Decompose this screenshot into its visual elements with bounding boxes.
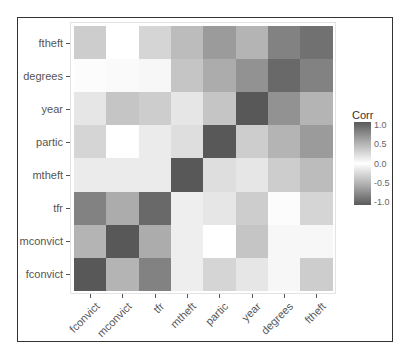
heatmap-cell bbox=[203, 59, 236, 93]
heatmap-cell bbox=[236, 192, 269, 226]
heatmap-cell bbox=[268, 26, 301, 60]
heatmap-cell bbox=[171, 59, 204, 93]
legend-tick-label: 1.0 bbox=[374, 120, 387, 130]
x-tick bbox=[219, 294, 220, 298]
heatmap-cell bbox=[268, 92, 301, 126]
y-tick-label: tfr bbox=[53, 202, 63, 214]
y-tick bbox=[66, 274, 70, 275]
legend-title: Corr bbox=[352, 109, 373, 121]
heatmap-cell bbox=[203, 26, 236, 60]
legend-tick-label: 0.0 bbox=[374, 159, 387, 169]
heatmap-cell bbox=[300, 26, 333, 60]
x-tick bbox=[155, 294, 156, 298]
y-tick-label: fconvict bbox=[26, 268, 63, 280]
heatmap-cell bbox=[106, 158, 139, 192]
y-tick-label: ftheft bbox=[39, 37, 63, 49]
y-tick-label: mtheft bbox=[32, 169, 63, 181]
heatmap-cell bbox=[171, 125, 204, 159]
heatmap-cell bbox=[300, 192, 333, 226]
heatmap-cell bbox=[268, 258, 301, 292]
x-tick bbox=[252, 294, 253, 298]
legend-tick-label: -0.5 bbox=[374, 178, 390, 188]
legend-tick-label: 0.5 bbox=[374, 139, 387, 149]
heatmap-cell bbox=[106, 125, 139, 159]
heatmap-cell bbox=[139, 26, 172, 60]
heatmap-cell bbox=[74, 125, 107, 159]
x-tick bbox=[90, 294, 91, 298]
heatmap-cell bbox=[106, 225, 139, 259]
heatmap-cell bbox=[268, 192, 301, 226]
heatmap-cell bbox=[171, 192, 204, 226]
heatmap-cell bbox=[139, 92, 172, 126]
heatmap-cell bbox=[236, 225, 269, 259]
y-tick bbox=[66, 175, 70, 176]
heatmap-cell bbox=[268, 158, 301, 192]
heatmap-cell bbox=[171, 26, 204, 60]
heatmap-cell bbox=[139, 225, 172, 259]
heatmap-cell bbox=[106, 26, 139, 60]
y-tick bbox=[66, 142, 70, 143]
heatmap-cell bbox=[203, 158, 236, 192]
y-tick bbox=[66, 76, 70, 77]
y-tick bbox=[66, 109, 70, 110]
heatmap-cell bbox=[236, 26, 269, 60]
heatmap-cell bbox=[268, 59, 301, 93]
heatmap-cell bbox=[171, 92, 204, 126]
heatmap-cell bbox=[203, 92, 236, 126]
heatmap-cell bbox=[203, 258, 236, 292]
heatmap-cell bbox=[268, 125, 301, 159]
y-tick bbox=[66, 208, 70, 209]
y-tick-label: degrees bbox=[23, 70, 63, 82]
x-tick bbox=[284, 294, 285, 298]
x-tick bbox=[187, 294, 188, 298]
heatmap-cell bbox=[106, 59, 139, 93]
heatmap-cell bbox=[300, 258, 333, 292]
heatmap-cell bbox=[171, 225, 204, 259]
legend-tick-label: -1.0 bbox=[374, 197, 390, 207]
heatmap-cell bbox=[236, 258, 269, 292]
heatmap-cell bbox=[139, 158, 172, 192]
heatmap-cell bbox=[74, 59, 107, 93]
heatmap-cell bbox=[171, 258, 204, 292]
heatmap-cell bbox=[236, 59, 269, 93]
heatmap-cell bbox=[139, 192, 172, 226]
heatmap-cell bbox=[300, 59, 333, 93]
y-tick-label: partic bbox=[36, 136, 63, 148]
heatmap-cell bbox=[106, 258, 139, 292]
heatmap-cell bbox=[106, 192, 139, 226]
heatmap-cell bbox=[300, 125, 333, 159]
heatmap-cell bbox=[74, 92, 107, 126]
heatmap-cell bbox=[139, 59, 172, 93]
heatmap-cell bbox=[203, 192, 236, 226]
heatmap-cell bbox=[236, 125, 269, 159]
heatmap-cell bbox=[171, 158, 204, 192]
heatmap-cell bbox=[106, 92, 139, 126]
heatmap-cell bbox=[203, 125, 236, 159]
heatmap-cell bbox=[300, 92, 333, 126]
heatmap-cell bbox=[236, 158, 269, 192]
heatmap-cell bbox=[139, 125, 172, 159]
heatmap-cell bbox=[203, 225, 236, 259]
y-tick bbox=[66, 241, 70, 242]
heatmap-cell bbox=[74, 225, 107, 259]
heatmap-cell bbox=[139, 258, 172, 292]
heatmap-cell bbox=[74, 158, 107, 192]
heatmap-cell bbox=[268, 225, 301, 259]
heatmap-cell bbox=[74, 26, 107, 60]
heatmap-cell bbox=[236, 92, 269, 126]
y-tick-label: mconvict bbox=[20, 235, 63, 247]
legend-colorbar bbox=[354, 122, 371, 205]
y-tick-label: year bbox=[42, 103, 63, 115]
heatmap-cell bbox=[74, 192, 107, 226]
x-tick bbox=[316, 294, 317, 298]
y-tick bbox=[66, 43, 70, 44]
heatmap-cell bbox=[74, 258, 107, 292]
x-tick bbox=[122, 294, 123, 298]
heatmap-cell bbox=[300, 158, 333, 192]
heatmap-cell bbox=[300, 225, 333, 259]
